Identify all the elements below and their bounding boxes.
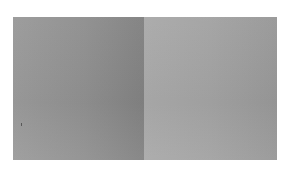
right-gray-panel	[144, 17, 277, 160]
left-gray-panel	[13, 17, 144, 160]
dust-speck	[21, 123, 22, 126]
image-figure	[13, 17, 277, 160]
